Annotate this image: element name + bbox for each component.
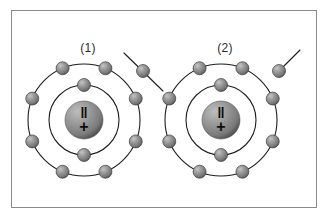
atom-group-2: ‖+(2)	[163, 41, 300, 178]
inner-shell-electron	[215, 149, 228, 162]
outer-shell-electron	[163, 92, 176, 105]
outer-shell-electron	[193, 62, 206, 75]
outer-shell-electron	[56, 165, 69, 178]
inner-shell-electron	[78, 79, 91, 92]
atoms-layer: ‖+(1)‖+(2)	[26, 41, 300, 178]
nucleus-proton-symbol: +	[216, 118, 225, 135]
outer-shell-electron	[163, 135, 176, 148]
outer-shell-electron	[26, 92, 39, 105]
nucleus-proton-symbol: +	[79, 118, 88, 135]
atom-group-1: ‖+(1)	[26, 41, 163, 178]
electron-trajectory-line	[283, 50, 300, 67]
inner-shell-electron	[215, 79, 228, 92]
atom-diagram-canvas: ‖+(1)‖+(2)	[0, 0, 328, 219]
outer-shell-electron	[129, 92, 142, 105]
outer-shell-electron	[26, 135, 39, 148]
escaping-electron	[273, 65, 286, 78]
escaping-electron	[137, 65, 150, 78]
outer-shell-electron	[56, 62, 69, 75]
outer-shell-electron	[266, 135, 279, 148]
atom-label-2: (2)	[217, 41, 233, 55]
outer-shell-electron	[236, 62, 249, 75]
outer-shell-electron	[236, 165, 249, 178]
inner-shell-electron	[78, 149, 91, 162]
outer-shell-electron	[266, 92, 279, 105]
outer-shell-electron	[99, 62, 112, 75]
outer-shell-electron	[99, 165, 112, 178]
outer-shell-electron	[129, 135, 142, 148]
outer-shell-electron	[193, 165, 206, 178]
figure-root: ‖+(1)‖+(2)	[0, 0, 328, 219]
atom-label-1: (1)	[80, 41, 96, 55]
